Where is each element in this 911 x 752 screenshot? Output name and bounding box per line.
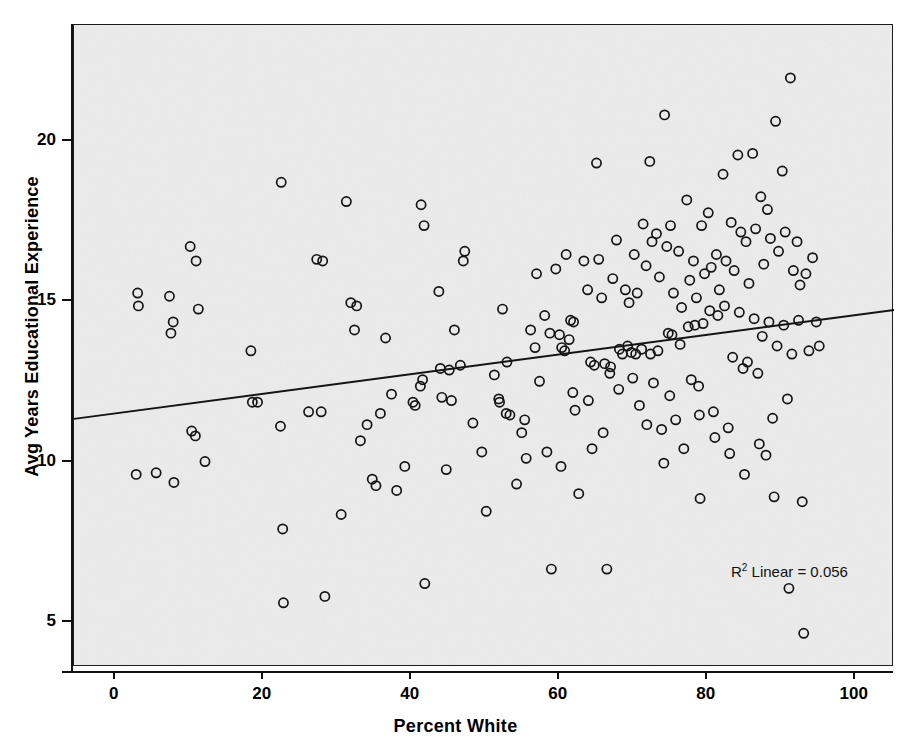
data-point bbox=[542, 447, 551, 456]
data-point bbox=[696, 494, 705, 503]
data-point bbox=[587, 444, 596, 453]
data-point bbox=[597, 293, 606, 302]
data-point bbox=[565, 335, 574, 344]
data-point bbox=[278, 524, 287, 533]
data-point bbox=[555, 330, 564, 339]
data-point bbox=[774, 247, 783, 256]
y-axis-title: Avg Years Educational Experience bbox=[22, 27, 43, 627]
regression-line bbox=[74, 310, 894, 419]
data-point bbox=[568, 388, 577, 397]
data-point bbox=[707, 263, 716, 272]
data-point bbox=[312, 255, 321, 264]
data-point bbox=[633, 288, 642, 297]
data-point bbox=[740, 470, 749, 479]
x-tick-label: 100 bbox=[840, 684, 868, 704]
data-point bbox=[447, 396, 456, 405]
data-point bbox=[436, 364, 445, 373]
data-point bbox=[376, 409, 385, 418]
r2-text: Linear = 0.056 bbox=[747, 563, 848, 580]
data-point bbox=[750, 314, 759, 323]
data-point bbox=[400, 462, 409, 471]
data-point bbox=[304, 407, 313, 416]
data-point bbox=[763, 205, 772, 214]
data-point bbox=[635, 401, 644, 410]
data-point bbox=[642, 420, 651, 429]
x-tick-mark bbox=[557, 671, 559, 679]
data-point bbox=[772, 341, 781, 350]
data-point bbox=[725, 449, 734, 458]
data-point bbox=[526, 325, 535, 334]
x-tick-label: 20 bbox=[252, 684, 271, 704]
data-point bbox=[751, 224, 760, 233]
x-tick-mark bbox=[409, 671, 411, 679]
data-point bbox=[169, 478, 178, 487]
data-point bbox=[459, 256, 468, 265]
data-point bbox=[709, 407, 718, 416]
data-point bbox=[679, 444, 688, 453]
data-point bbox=[551, 264, 560, 273]
data-point bbox=[166, 329, 175, 338]
data-point bbox=[579, 256, 588, 265]
data-point bbox=[277, 178, 286, 187]
data-point bbox=[200, 457, 209, 466]
data-point bbox=[761, 451, 770, 460]
data-point bbox=[812, 317, 821, 326]
x-tick-mark bbox=[705, 671, 707, 679]
data-point bbox=[682, 195, 691, 204]
data-point bbox=[671, 415, 680, 424]
y-tick-mark bbox=[62, 460, 71, 462]
data-point bbox=[710, 433, 719, 442]
x-tick-label: 80 bbox=[696, 684, 715, 704]
data-point bbox=[602, 565, 611, 574]
y-tick-mark bbox=[62, 299, 71, 301]
data-point bbox=[649, 378, 658, 387]
data-point bbox=[320, 592, 329, 601]
data-point bbox=[630, 250, 639, 259]
data-point bbox=[741, 237, 750, 246]
data-point bbox=[786, 73, 795, 82]
data-point bbox=[713, 311, 722, 320]
data-point bbox=[169, 317, 178, 326]
y-tick-mark bbox=[62, 139, 71, 141]
y-axis-line bbox=[71, 24, 73, 672]
data-point bbox=[134, 301, 143, 310]
data-point bbox=[419, 221, 428, 230]
data-point bbox=[450, 325, 459, 334]
data-point bbox=[621, 285, 630, 294]
data-point bbox=[556, 462, 565, 471]
data-point bbox=[771, 117, 780, 126]
data-point bbox=[792, 237, 801, 246]
data-point bbox=[735, 308, 744, 317]
data-point bbox=[637, 345, 646, 354]
x-axis-title: Percent White bbox=[0, 716, 911, 737]
data-point bbox=[628, 374, 637, 383]
data-point bbox=[490, 370, 499, 379]
data-point bbox=[728, 353, 737, 362]
data-point bbox=[639, 219, 648, 228]
data-point bbox=[783, 394, 792, 403]
x-tick-mark bbox=[261, 671, 263, 679]
data-point bbox=[532, 269, 541, 278]
data-point bbox=[778, 166, 787, 175]
data-point bbox=[659, 459, 668, 468]
data-point bbox=[624, 298, 633, 307]
data-point bbox=[477, 447, 486, 456]
data-point bbox=[194, 304, 203, 313]
data-point bbox=[770, 492, 779, 501]
data-point bbox=[781, 227, 790, 236]
data-point bbox=[442, 465, 451, 474]
data-point bbox=[498, 304, 507, 313]
data-point bbox=[350, 325, 359, 334]
data-point bbox=[246, 346, 255, 355]
data-point bbox=[744, 279, 753, 288]
data-point bbox=[517, 428, 526, 437]
data-point bbox=[789, 266, 798, 275]
scatter-plot-figure: 020406080100 5101520 Percent White Avg Y… bbox=[0, 0, 911, 752]
data-point bbox=[798, 497, 807, 506]
x-axis-line bbox=[62, 671, 893, 673]
data-point bbox=[356, 436, 365, 445]
data-point bbox=[695, 410, 704, 419]
data-point bbox=[317, 407, 326, 416]
r2-prefix: R bbox=[731, 563, 742, 580]
x-tick-mark bbox=[113, 671, 115, 679]
